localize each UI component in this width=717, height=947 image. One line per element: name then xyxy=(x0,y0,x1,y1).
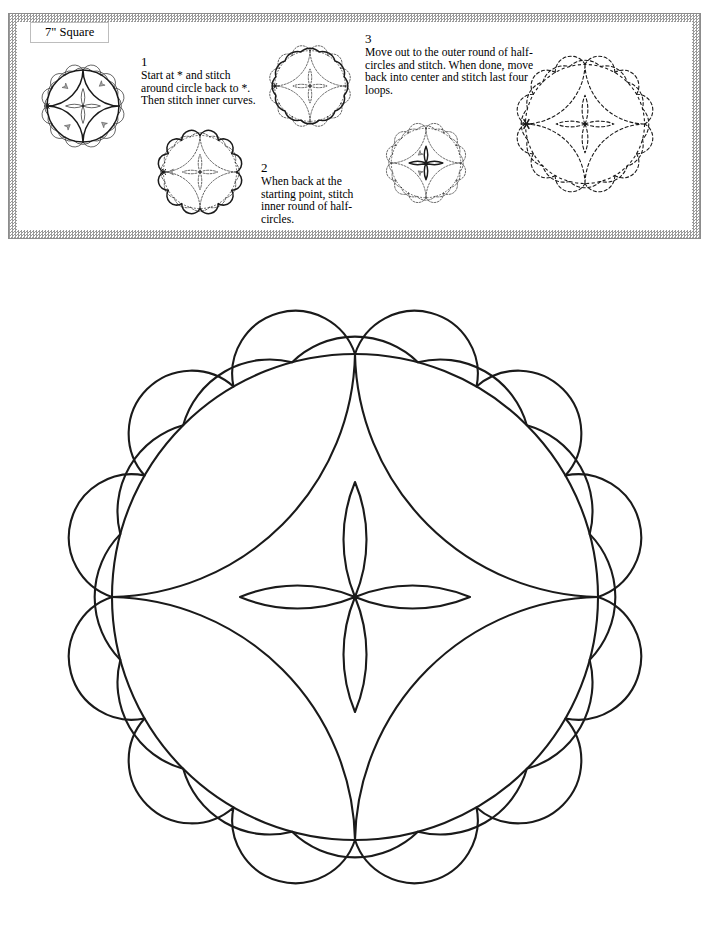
pattern-page: 7" Square 1 Start at * and stitch around… xyxy=(0,0,717,947)
center-petal-group xyxy=(182,154,217,189)
instruction-step-2: 2 When back at the starting point, stitc… xyxy=(261,160,379,226)
figure-step-1 xyxy=(25,48,141,164)
direction-arrow xyxy=(97,81,105,89)
direction-arrow xyxy=(417,169,424,176)
step-1-number: 1 xyxy=(141,54,259,69)
center-petal-group xyxy=(240,482,470,712)
figure-step-4 xyxy=(370,104,482,222)
step-2-text: When back at the starting point, stitch … xyxy=(261,176,379,226)
direction-arrow xyxy=(64,122,72,130)
direction-arrow xyxy=(417,150,424,157)
center-petal-group xyxy=(66,89,101,124)
step-2-number: 2 xyxy=(261,160,379,175)
figure-step-3 xyxy=(253,28,367,144)
direction-arrow xyxy=(62,83,70,91)
main-pattern-figure xyxy=(0,243,717,947)
step-3-number: 3 xyxy=(365,31,537,46)
center-petal-group xyxy=(409,146,443,180)
center-petal-group xyxy=(556,95,614,153)
title-box: 7" Square xyxy=(30,22,109,43)
instruction-step-3: 3 Move out to the outer round of half-ci… xyxy=(365,31,537,97)
title-label: 7" Square xyxy=(45,25,94,39)
direction-arrow xyxy=(100,120,108,128)
step-1-text: Start at * and stitch around circle back… xyxy=(141,70,259,108)
center-petal-group xyxy=(293,69,327,103)
step-3-text: Move out to the outer round of half-circ… xyxy=(365,47,537,97)
figure-step-2 xyxy=(140,113,260,231)
instruction-step-1: 1 Start at * and stitch around circle ba… xyxy=(141,54,259,108)
direction-arrow xyxy=(168,169,173,175)
